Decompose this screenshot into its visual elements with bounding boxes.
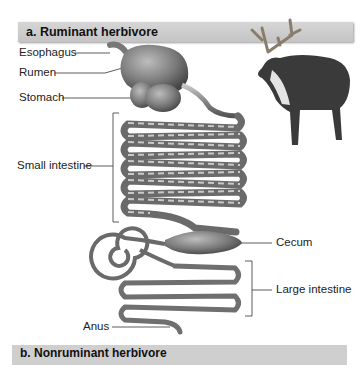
cecum-and-spiral-colon xyxy=(91,228,242,278)
panel-b-header: b. Nonruminant herbivore xyxy=(12,345,347,365)
large-intestine xyxy=(121,266,239,332)
panel-b-title: b. Nonruminant herbivore xyxy=(20,346,167,360)
label-anus: Anus xyxy=(83,320,109,332)
label-esophagus: Esophagus xyxy=(19,46,77,58)
rumen-stomach-organ xyxy=(110,44,238,116)
label-large-intestine: Large intestine xyxy=(276,283,351,295)
label-rumen: Rumen xyxy=(19,66,56,78)
label-small-intestine: Small intestine xyxy=(17,159,92,171)
reindeer-illustration xyxy=(252,20,350,145)
label-stomach: Stomach xyxy=(19,91,64,103)
label-cecum: Cecum xyxy=(276,236,312,248)
